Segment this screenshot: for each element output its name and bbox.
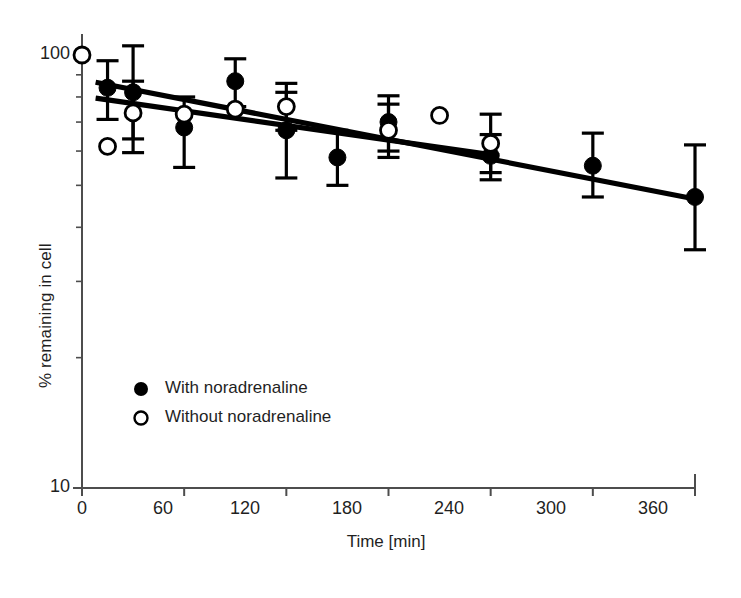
open-circle-marker xyxy=(432,107,448,123)
filled-circle-marker xyxy=(227,73,244,90)
open-circle-marker xyxy=(125,105,141,121)
filled-circle-marker xyxy=(329,149,346,166)
open-circle-marker xyxy=(381,122,397,138)
filled-circle-marker xyxy=(99,79,116,96)
filled-circle-marker xyxy=(125,84,142,101)
figure: % remaining in cell Time [min] 100 10 0 … xyxy=(0,0,741,598)
filled-circle-marker xyxy=(584,157,601,174)
filled-circle-marker xyxy=(278,122,295,139)
open-circle-marker xyxy=(278,99,294,115)
x-axis-ticks xyxy=(82,474,695,496)
open-circle-marker xyxy=(74,47,90,63)
filled-circle-marker xyxy=(687,188,704,205)
open-circle-marker xyxy=(227,101,243,117)
open-circle-marker xyxy=(100,138,116,154)
open-circle-marker xyxy=(176,106,192,122)
error-bars xyxy=(97,46,706,250)
page-bottom-artifact xyxy=(0,589,741,598)
open-circle-marker xyxy=(483,135,499,151)
plot-canvas xyxy=(0,0,741,598)
